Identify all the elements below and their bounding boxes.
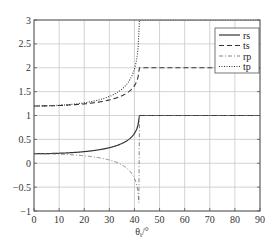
x-tick-label: 40 [129,214,139,225]
y-tick-label: −0.5 [13,182,31,193]
y-tick-label: 0.5 [19,134,32,145]
legend-label-tp: tp [243,61,251,72]
y-tick-label: 0 [26,158,31,169]
series-rp [34,116,260,203]
chart: 0102030405060708090−1−0.500.511.522.53 r… [0,0,274,248]
x-tick-label: 20 [79,214,89,225]
legend-label-rp: rp [243,51,251,62]
x-tick-label: 0 [32,214,37,225]
y-tick-label: 2.5 [19,38,32,49]
y-tick-label: 1 [26,110,31,121]
x-axis-label: θi/° [135,226,149,239]
legend-label-ts: ts [243,40,250,51]
x-tick-label: 90 [255,214,265,225]
x-tick-label: 50 [155,214,165,225]
y-tick-label: 2 [26,62,31,73]
legend: rstsrptp [215,28,259,73]
x-tick-label: 70 [205,214,215,225]
x-tick-label: 10 [54,214,64,225]
y-tick-label: 1.5 [19,86,32,97]
y-tick-label: 3 [26,15,31,26]
y-tick-label: −1 [20,206,31,217]
x-tick-label: 60 [180,214,190,225]
series-ts [34,68,260,106]
legend-label-rs: rs [243,30,250,41]
x-tick-label: 80 [230,214,240,225]
series-rs [34,116,260,154]
x-tick-label: 30 [104,214,114,225]
